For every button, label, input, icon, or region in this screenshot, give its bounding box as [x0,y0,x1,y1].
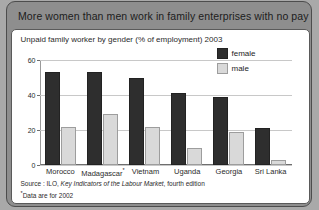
bar-female [87,72,102,165]
legend-label-female: female [232,49,256,58]
title-band: More women than men work in family enter… [7,2,311,29]
bar-female [213,97,228,165]
chart-subtitle: Unpaid family worker by gender (% of emp… [21,35,223,44]
footnote: *Data are for 2002 [21,190,74,199]
y-tick-mark-0 [37,165,40,166]
x-axis-label: Madagascar* [81,167,124,178]
legend-swatch-female-icon [217,48,228,59]
x-axis-labels: MoroccoMadagascar*VietnamUgandaGeorgiaSr… [40,167,292,178]
bar-female [129,78,144,166]
chart-card: More women than men work in family enter… [6,1,312,207]
bar-female [255,128,270,165]
bar-male [271,160,286,165]
y-tick-label-20: 20 [28,126,36,133]
x-axis-label: Sri Lanka [250,167,292,178]
plot-area: 0204060 [40,60,292,165]
bar-group [82,60,124,165]
page-title: More women than men work in family enter… [18,10,309,22]
footnote-text: Data are for 2002 [23,192,74,199]
bar-group [124,60,166,165]
x-axis-label: Morocco [40,167,82,178]
bar-male [187,148,202,165]
bar-group [208,60,250,165]
figure-root: More women than men work in family enter… [0,0,319,210]
gridline-0 [40,165,292,166]
source-publication: Key Indicators of the Labour Market [61,180,164,187]
bar-male [145,127,160,166]
bar-male [61,127,76,166]
bar-male [229,132,244,165]
x-axis-label: Vietnam [125,167,167,178]
bar-male [103,114,118,165]
source-note: Source : ILO, Key Indicators of the Labo… [21,180,205,187]
x-axis-label: Georgia [208,167,250,178]
y-tick-label-60: 60 [28,57,36,64]
bar-groups [40,60,292,165]
source-prefix: Source : ILO, [21,180,61,187]
bar-group [166,60,208,165]
chart-panel: Unpaid family worker by gender (% of emp… [11,29,310,204]
y-tick-label-40: 40 [28,91,36,98]
bar-group [250,60,292,165]
legend-item-female: female [217,48,256,59]
bar-female [45,72,60,165]
y-tick-label-0: 0 [32,162,36,169]
source-suffix: , fourth edition [164,180,205,187]
bar-female [171,93,186,165]
bar-group [40,60,82,165]
x-axis-label: Uganda [166,167,208,178]
